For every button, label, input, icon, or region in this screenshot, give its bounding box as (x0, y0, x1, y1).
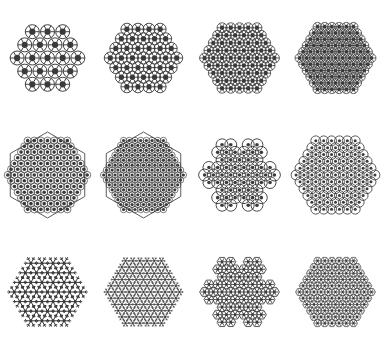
pattern-grid (0, 0, 383, 350)
pattern-figure (0, 0, 383, 350)
pattern-panel-9 (0, 233, 96, 350)
pattern-panel-4 (287, 0, 383, 117)
pattern-panel-6 (96, 117, 192, 234)
pattern-panel-10 (96, 233, 192, 350)
pattern-panel-7 (192, 117, 288, 234)
pattern-panel-3 (192, 0, 288, 117)
pattern-panel-12 (287, 233, 383, 350)
pattern-panel-5 (0, 117, 96, 234)
pattern-panel-8 (287, 117, 383, 234)
pattern-panel-11 (192, 233, 288, 350)
pattern-panel-1 (0, 0, 96, 117)
pattern-panel-2 (96, 0, 192, 117)
